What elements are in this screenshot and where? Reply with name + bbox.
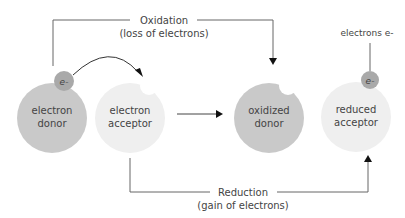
oxidation-subtitle: (loss of electrons): [119, 28, 208, 39]
svg-text:electron: electron: [32, 105, 73, 116]
reaction-arrowhead-icon: [216, 110, 223, 118]
svg-text:acceptor: acceptor: [108, 118, 153, 129]
svg-text:electron: electron: [110, 105, 151, 116]
electron-on-donor: e-: [54, 71, 74, 91]
node-reduced-acceptor: reduced acceptor: [321, 82, 391, 152]
svg-text:reduced: reduced: [336, 104, 377, 115]
reduction-arrowhead-icon: [364, 155, 372, 162]
oxidation-connector: [53, 20, 277, 66]
electron-on-acceptor: e-: [361, 43, 379, 89]
svg-text:e-: e-: [60, 77, 69, 87]
node-electron-acceptor: electron acceptor: [95, 83, 165, 153]
electron-transfer-arrow: [73, 57, 143, 77]
oxidation-title: Oxidation: [140, 15, 188, 26]
svg-text:donor: donor: [37, 118, 67, 129]
reduction-subtitle: (gain of electrons): [197, 200, 289, 211]
electrons-label: electrons e-: [340, 28, 393, 38]
svg-text:acceptor: acceptor: [334, 117, 379, 128]
reaction-arrow: [177, 110, 223, 118]
svg-text:oxidized: oxidized: [248, 105, 289, 116]
svg-text:donor: donor: [254, 118, 284, 129]
node-oxidized-donor: oxidized donor: [234, 83, 304, 153]
redox-diagram: Oxidation (loss of electrons) electron d…: [0, 0, 405, 218]
node-electron-donor: electron donor: [17, 83, 87, 153]
svg-text:e-: e-: [366, 76, 375, 86]
reduction-title: Reduction: [218, 187, 268, 198]
oxidation-arrowhead-icon: [269, 58, 277, 65]
